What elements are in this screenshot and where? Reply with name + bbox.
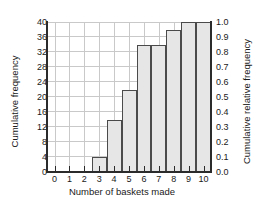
- x-axis-title: Number of baskets made: [42, 186, 202, 197]
- y-tick-label-right: 0.4: [216, 108, 238, 117]
- y-tick-label-left: 12: [25, 123, 47, 132]
- bar-8: [166, 30, 181, 173]
- bar-10: [196, 22, 211, 172]
- y-tick-label-left: 36: [25, 33, 47, 42]
- y-tick-label-right: 0.1: [216, 153, 238, 162]
- x-tick-mark: [84, 166, 85, 172]
- plot-area: [47, 22, 211, 172]
- bar-7: [151, 45, 166, 173]
- y-tick-label-left: 32: [25, 48, 47, 57]
- y-tick-label-right: 0.6: [216, 78, 238, 87]
- x-tick-mark: [99, 166, 100, 172]
- y-axis-spine-right: [210, 21, 212, 173]
- bar-9: [181, 22, 196, 172]
- y-tick-label-right: 0.7: [216, 63, 238, 72]
- y-tick-label-left: 8: [25, 138, 47, 147]
- y-tick-label-left: 40: [25, 18, 47, 27]
- x-tick-mark: [129, 166, 130, 172]
- y-tick-label-left: 4: [25, 153, 47, 162]
- y-tick-label-left: 16: [25, 108, 47, 117]
- cumulative-frequency-histogram: Cumulative frequency Cumulative relative…: [0, 0, 260, 205]
- x-tick-mark: [55, 166, 56, 172]
- gridline-vertical: [99, 22, 100, 172]
- y-tick-label-right: 0.3: [216, 123, 238, 132]
- gridline-vertical: [84, 22, 85, 172]
- y-tick-label-left: 24: [25, 78, 47, 87]
- y-tick-label-left: 0: [25, 168, 47, 177]
- bar-5: [122, 90, 137, 173]
- y-tick-label-right: 0.2: [216, 138, 238, 147]
- x-tick-label: 10: [195, 175, 213, 184]
- x-tick-mark: [159, 166, 160, 172]
- x-tick-mark: [114, 166, 115, 172]
- x-tick-mark: [174, 166, 175, 172]
- y-tick-label-right: 0.9: [216, 33, 238, 42]
- y-tick-label-right: 0.8: [216, 48, 238, 57]
- x-tick-mark: [144, 166, 145, 172]
- x-tick-mark: [189, 166, 190, 172]
- y-axis-title-left: Cumulative frequency: [9, 32, 20, 172]
- y-tick-label-right: 1.0: [216, 18, 238, 27]
- bar-6: [137, 45, 152, 173]
- y-tick-label-right: 0.0: [216, 168, 238, 177]
- x-tick-mark: [204, 166, 205, 172]
- y-tick-label-left: 28: [25, 63, 47, 72]
- gridline-vertical: [69, 22, 70, 172]
- y-tick-label-right: 0.5: [216, 93, 238, 102]
- bar-4: [107, 120, 122, 173]
- y-axis-spine-left: [46, 21, 48, 173]
- y-tick-label-left: 20: [25, 93, 47, 102]
- y-axis-title-right: Cumulative relative frequency: [241, 32, 252, 172]
- x-tick-mark: [69, 166, 70, 172]
- gridline-vertical: [55, 22, 56, 172]
